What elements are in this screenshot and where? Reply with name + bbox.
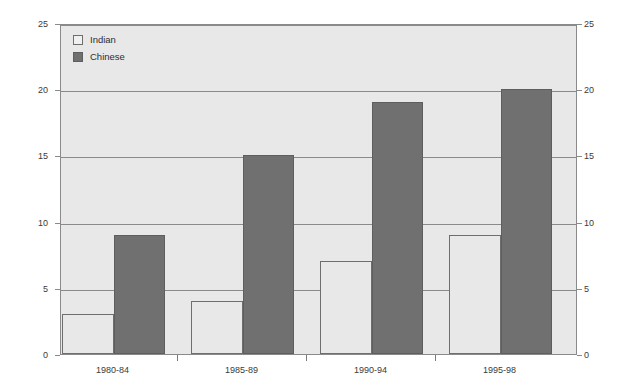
gridline-10 xyxy=(61,224,576,225)
ytick-label-right-5: 5 xyxy=(584,285,589,294)
bar-chinese-1980-84 xyxy=(114,235,165,354)
ytick-label-left-25: 25 xyxy=(38,20,48,29)
xtick-label-1990-94: 1990-94 xyxy=(319,365,422,375)
ytick-mark-right-20 xyxy=(577,90,582,91)
ytick-label-right-0: 0 xyxy=(584,351,589,360)
legend-item-chinese: Chinese xyxy=(73,49,125,64)
xtick-mark-1 xyxy=(177,355,178,361)
xtick-label-1995-98: 1995-98 xyxy=(448,365,551,375)
ytick-mark-right-25 xyxy=(577,24,582,25)
legend-item-indian: Indian xyxy=(73,32,125,47)
ytick-mark-left-10 xyxy=(55,223,60,224)
ytick-mark-right-5 xyxy=(577,289,582,290)
legend-swatch-indian-icon xyxy=(73,35,83,45)
bar-chinese-1995-98 xyxy=(501,89,552,354)
bar-indian-1980-84 xyxy=(62,314,114,354)
legend-swatch-chinese-icon xyxy=(73,52,83,62)
bar-indian-1990-94 xyxy=(320,261,372,354)
ytick-label-left-20: 20 xyxy=(38,86,48,95)
ytick-label-left-10: 10 xyxy=(38,219,48,228)
ytick-mark-right-0 xyxy=(577,355,582,356)
ytick-mark-right-10 xyxy=(577,223,582,224)
gridline-25 xyxy=(61,25,576,26)
ytick-mark-left-25 xyxy=(55,24,60,25)
bar-chart: Indian Chinese 25 20 15 10 5 0 25 20 15 … xyxy=(0,0,626,392)
ytick-label-left-15: 15 xyxy=(38,152,48,161)
legend-label-indian: Indian xyxy=(90,35,116,45)
ytick-mark-right-15 xyxy=(577,156,582,157)
bar-chinese-1985-89 xyxy=(243,155,294,354)
ytick-mark-left-15 xyxy=(55,156,60,157)
xtick-label-1985-89: 1985-89 xyxy=(190,365,293,375)
legend-label-chinese: Chinese xyxy=(90,52,125,62)
ytick-label-left-5: 5 xyxy=(43,285,48,294)
bar-indian-1995-98 xyxy=(449,235,501,354)
ytick-label-left-0: 0 xyxy=(43,351,48,360)
ytick-mark-left-20 xyxy=(55,90,60,91)
ytick-label-right-25: 25 xyxy=(584,20,594,29)
ytick-label-right-20: 20 xyxy=(584,86,594,95)
ytick-mark-left-0 xyxy=(55,355,60,356)
ytick-mark-left-5 xyxy=(55,289,60,290)
gridline-15 xyxy=(61,157,576,158)
ytick-label-right-10: 10 xyxy=(584,219,594,228)
legend: Indian Chinese xyxy=(73,32,125,66)
bar-indian-1985-89 xyxy=(191,301,243,354)
ytick-label-right-15: 15 xyxy=(584,152,594,161)
gridline-20 xyxy=(61,91,576,92)
plot-area: Indian Chinese xyxy=(60,24,577,355)
bar-chinese-1990-94 xyxy=(372,102,423,354)
xtick-mark-3 xyxy=(435,355,436,361)
xtick-label-1980-84: 1980-84 xyxy=(61,365,164,375)
xtick-mark-2 xyxy=(306,355,307,361)
